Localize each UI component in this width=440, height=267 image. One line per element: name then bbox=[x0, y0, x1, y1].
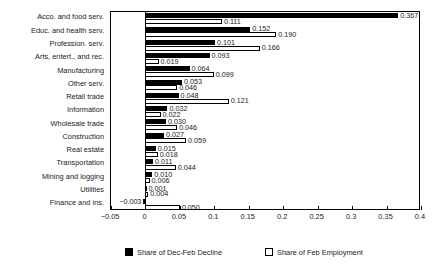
legend-swatch-icon bbox=[125, 248, 133, 256]
bar bbox=[145, 125, 177, 130]
bar-value-label: 0.044 bbox=[178, 164, 196, 171]
bar bbox=[145, 46, 259, 51]
bar bbox=[145, 119, 166, 124]
bar-value-label: 0.011 bbox=[155, 158, 172, 165]
bar bbox=[145, 152, 157, 157]
category-label: Transportation bbox=[57, 159, 104, 167]
category-axis-labels: Acco. and food serv.Educ. and health ser… bbox=[0, 11, 107, 210]
bar bbox=[145, 159, 153, 164]
bar bbox=[145, 40, 215, 45]
x-axis-tick-label: 0.15 bbox=[241, 212, 255, 221]
bar-value-label: 0.152 bbox=[252, 25, 270, 32]
x-axis-tick bbox=[249, 206, 250, 210]
category-label: Arts, entert., and rec. bbox=[35, 53, 104, 61]
x-axis-tick-label: 0.2 bbox=[277, 212, 287, 221]
bar-value-label: 0.006 bbox=[152, 177, 170, 184]
x-axis-tick bbox=[214, 206, 215, 210]
bar-value-label: 0.166 bbox=[262, 44, 280, 51]
bar bbox=[145, 138, 186, 143]
chart-legend: Share of Dec-Feb Decline Share of Feb Em… bbox=[110, 245, 420, 259]
x-axis-labels: −0.0500.050.10.150.20.250.30.350.4 bbox=[110, 212, 420, 224]
bar bbox=[145, 13, 398, 18]
legend-swatch-icon bbox=[265, 248, 273, 256]
x-axis-tick bbox=[283, 206, 284, 210]
category-label: Acco. and food serv. bbox=[37, 13, 104, 21]
bar bbox=[145, 192, 148, 197]
bar-value-label: 0.019 bbox=[161, 58, 179, 65]
bar bbox=[145, 178, 149, 183]
bar bbox=[145, 112, 160, 117]
bar bbox=[145, 186, 147, 191]
x-axis-tick bbox=[421, 206, 422, 210]
bar bbox=[145, 85, 177, 90]
bar-value-label: 0.004 bbox=[150, 190, 168, 197]
x-axis-tick-label: 0.35 bbox=[378, 212, 392, 221]
x-axis-tick bbox=[352, 206, 353, 210]
bar bbox=[145, 32, 276, 37]
bar bbox=[145, 72, 213, 77]
bar-value-label: −0.003 bbox=[119, 198, 141, 205]
bar-value-label: 0.059 bbox=[188, 137, 206, 144]
bar bbox=[145, 165, 175, 170]
category-label: Information bbox=[67, 106, 104, 114]
x-axis-tick-label: 0.25 bbox=[309, 212, 323, 221]
bar-value-label: 0.121 bbox=[231, 97, 249, 104]
x-axis-tick-label: −0.05 bbox=[101, 212, 120, 221]
legend-label: Share of Feb Employment bbox=[277, 248, 363, 257]
bar bbox=[145, 133, 164, 138]
category-label: Manufacturing bbox=[57, 67, 104, 75]
bar bbox=[145, 99, 228, 104]
plot-area: 0.3670.1110.1520.1900.1010.1660.0930.019… bbox=[110, 11, 420, 210]
bar-value-label: 0.111 bbox=[224, 18, 241, 25]
legend-item-dec-feb-decline: Share of Dec-Feb Decline bbox=[125, 248, 222, 257]
category-label: Wholesale trade bbox=[51, 120, 104, 128]
bar-value-label: 0.093 bbox=[212, 52, 230, 59]
bar bbox=[145, 59, 158, 64]
category-label: Profession. serv. bbox=[50, 40, 105, 48]
x-axis-tick-label: 0.05 bbox=[172, 212, 186, 221]
bar-value-label: 0.048 bbox=[181, 92, 199, 99]
bar-value-label: 0.367 bbox=[400, 12, 418, 19]
category-label: Utilities bbox=[80, 186, 104, 194]
x-axis-tick bbox=[387, 206, 388, 210]
bar bbox=[145, 27, 250, 32]
category-label: Finance and ins. bbox=[50, 199, 104, 207]
category-label: Construction bbox=[63, 133, 105, 141]
bar bbox=[145, 19, 221, 24]
x-axis-tick bbox=[111, 206, 112, 210]
x-axis-tick-label: 0.1 bbox=[208, 212, 218, 221]
category-label: Mining and logging bbox=[42, 173, 104, 181]
bar-value-label: 0.190 bbox=[278, 31, 296, 38]
legend-label: Share of Dec-Feb Decline bbox=[137, 248, 222, 257]
category-label: Retail trade bbox=[66, 93, 104, 101]
bar bbox=[143, 199, 145, 204]
bar-value-label: 0.064 bbox=[192, 65, 210, 72]
category-label: Other serv. bbox=[68, 80, 104, 88]
legend-item-feb-employment: Share of Feb Employment bbox=[265, 248, 363, 257]
bar-value-label: 0.050 bbox=[182, 204, 200, 211]
x-axis-tick bbox=[180, 206, 181, 210]
plot-inner: 0.3670.1110.1520.1900.1010.1660.0930.019… bbox=[111, 12, 419, 209]
bar bbox=[145, 66, 189, 71]
bar-value-label: 0.101 bbox=[217, 39, 235, 46]
bar bbox=[145, 146, 155, 151]
x-axis-tick bbox=[318, 206, 319, 210]
bar bbox=[145, 93, 178, 98]
category-label: Real estate bbox=[67, 146, 104, 154]
x-axis-tick-label: 0 bbox=[142, 212, 146, 221]
category-label: Educ. and health serv. bbox=[31, 27, 104, 35]
x-axis-tick-label: 0.4 bbox=[415, 212, 425, 221]
x-axis-tick-label: 0.3 bbox=[346, 212, 356, 221]
bar-value-label: 0.027 bbox=[166, 131, 184, 138]
bar bbox=[145, 205, 179, 210]
bar-chart: Acco. and food serv.Educ. and health ser… bbox=[0, 0, 440, 267]
bar bbox=[145, 80, 182, 85]
bar-value-label: 0.099 bbox=[216, 71, 234, 78]
